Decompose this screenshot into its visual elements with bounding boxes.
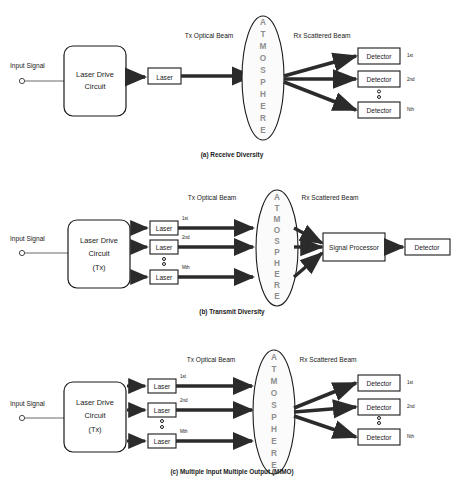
detector-label-a-3: Detector — [367, 107, 393, 114]
detector-index-c-1: 1st — [407, 380, 414, 385]
ldc-line2-b: Circuit — [89, 249, 110, 258]
svg-text:P: P — [260, 78, 266, 87]
detector-label-c-3: Detector — [367, 434, 393, 441]
svg-text:H: H — [271, 425, 277, 434]
svg-text:H: H — [274, 259, 280, 268]
beam-scattered-c-3 — [294, 416, 356, 437]
vertical-ellipsis-lasers-c — [161, 420, 164, 429]
rx-beam-label-c: Rx Scattered Beam — [299, 356, 357, 363]
input-signal-label-b: Input Signal — [10, 235, 45, 243]
detector-label-c-2: Detector — [367, 404, 393, 411]
ldc-line2-a: Circuit — [85, 82, 106, 91]
laser-label-a-1: Laser — [156, 74, 173, 81]
svg-text:O: O — [260, 54, 267, 63]
panel-b — [19, 190, 450, 306]
tx-beam-label-a: Tx Optical Beam — [185, 32, 234, 40]
detector-index-c-2: 2nd — [407, 404, 415, 409]
svg-text:T: T — [271, 365, 276, 374]
svg-text:P: P — [271, 413, 277, 422]
input-terminal-icon — [19, 78, 24, 83]
svg-text:A: A — [274, 193, 280, 202]
signal-processor-label-b: Signal Processor — [329, 244, 380, 252]
beam-scattered-c-1 — [294, 383, 356, 408]
laser-label-c-2: Laser — [154, 407, 171, 414]
svg-text:T: T — [274, 204, 279, 213]
laser-drive-circuit-box-a[interactable] — [64, 46, 126, 116]
input-terminal-icon — [19, 250, 24, 255]
detector-index-a-3: Nth — [407, 107, 415, 112]
ldc-line2-c: Circuit — [85, 411, 106, 420]
ldc-line3-b: (Tx) — [92, 263, 105, 272]
input-signal-label-a: Input Signal — [10, 62, 45, 70]
vertical-ellipsis-detectors-c — [378, 417, 381, 425]
svg-text:E: E — [274, 270, 280, 279]
svg-text:H: H — [260, 90, 266, 99]
laser-label-b-2: Laser — [156, 244, 173, 251]
ldc-line1-b: Laser Drive — [80, 236, 118, 245]
laser-label-b-1: Laser — [156, 225, 173, 232]
caption-b: (b) Transmit Diversity — [199, 308, 265, 316]
tx-beam-label-b: Tx Optical Beam — [188, 194, 237, 202]
svg-text:R: R — [271, 449, 277, 458]
detector-index-a-2: 2nd — [407, 77, 415, 82]
detector-index-a-1: 1st — [407, 53, 414, 58]
svg-text:E: E — [274, 292, 280, 301]
detector-label-a-2: Detector — [367, 76, 393, 83]
svg-text:T: T — [260, 30, 265, 39]
svg-text:S: S — [274, 237, 280, 246]
figure-canvas: Input Signal Laser Drive Circuit Laser T… — [0, 0, 463, 492]
vertical-ellipsis-lasers-b — [163, 258, 166, 266]
svg-text:A: A — [260, 18, 266, 27]
svg-text:P: P — [274, 248, 280, 257]
optical-link-diagram: Input Signal Laser Drive Circuit Laser T… — [0, 0, 463, 492]
ldc-line3-c: (Tx) — [88, 425, 101, 434]
panel-c — [19, 350, 400, 474]
laser-index-b-1: 1st — [182, 216, 189, 221]
detector-index-c-3: Nth — [407, 434, 415, 439]
input-signal-label-c: Input Signal — [10, 400, 45, 408]
svg-text:R: R — [274, 281, 280, 290]
beam-scattered-a-3 — [284, 82, 356, 110]
beam-scattered-a-1 — [284, 56, 356, 76]
ldc-line1-a: Laser Drive — [76, 70, 114, 79]
rx-beam-label-a: Rx Scattered Beam — [293, 32, 351, 39]
svg-text:M: M — [260, 42, 267, 51]
input-signal-a — [19, 78, 64, 83]
caption-a: (a) Receive Diversity — [201, 151, 264, 159]
laser-index-b-2: 2nd — [182, 235, 190, 240]
svg-text:E: E — [260, 102, 266, 111]
svg-text:E: E — [260, 126, 266, 135]
detector-label-b-1: Detector — [415, 244, 441, 251]
laser-label-b-3: Laser — [156, 274, 173, 281]
laser-label-c-1: Laser — [154, 383, 171, 390]
vertical-ellipsis-detectors-a — [378, 90, 381, 99]
laser-index-c-2: 2nd — [180, 398, 188, 403]
beam-scattered-c-2 — [294, 407, 356, 412]
svg-text:S: S — [271, 401, 277, 410]
laser-index-c-3: Mth — [180, 429, 188, 434]
svg-text:E: E — [271, 461, 277, 470]
detector-label-a-1: Detector — [367, 53, 393, 60]
svg-text:O: O — [274, 226, 281, 235]
svg-text:M: M — [271, 377, 278, 386]
detector-label-c-1: Detector — [367, 380, 393, 387]
input-signal-c — [19, 415, 64, 420]
laser-index-b-3: Mth — [182, 265, 190, 270]
tx-beam-label-c: Tx Optical Beam — [187, 356, 236, 364]
laser-index-c-1: 1st — [180, 374, 187, 379]
rx-beam-label-b: Rx Scattered Beam — [301, 194, 359, 201]
svg-text:R: R — [260, 114, 266, 123]
svg-text:M: M — [274, 215, 281, 224]
ldc-line1-c: Laser Drive — [76, 398, 114, 407]
input-signal-b — [19, 250, 68, 255]
svg-text:E: E — [271, 437, 277, 446]
input-terminal-icon — [19, 415, 24, 420]
laser-label-c-3: Laser — [154, 438, 171, 445]
svg-text:S: S — [260, 66, 266, 75]
svg-text:A: A — [271, 353, 277, 362]
svg-text:O: O — [271, 389, 278, 398]
